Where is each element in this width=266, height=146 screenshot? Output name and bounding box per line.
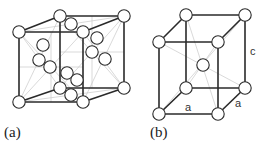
corner-atom	[77, 96, 89, 108]
atom	[197, 59, 209, 71]
atom	[86, 46, 98, 58]
dimension-a-front: a	[185, 101, 192, 113]
atom	[44, 61, 56, 73]
atom	[91, 32, 103, 44]
corner-atom	[54, 10, 66, 22]
panel-b-label: (b)	[150, 124, 168, 141]
corner-atom	[212, 36, 224, 48]
corner-atom	[239, 82, 251, 94]
corner-atom	[153, 108, 165, 120]
corner-atom	[13, 26, 25, 38]
corner-atom	[13, 96, 25, 108]
corner-atom	[180, 9, 192, 21]
atom	[65, 18, 77, 30]
corner-atom	[118, 82, 130, 94]
corner-atom	[239, 9, 251, 21]
atom	[33, 54, 45, 66]
atom	[99, 53, 111, 65]
corner-atom	[54, 82, 66, 94]
panel-a-label: (a)	[4, 124, 21, 141]
corner-atom	[212, 108, 224, 120]
atom	[37, 39, 49, 51]
corner-atom	[180, 82, 192, 94]
corner-atom	[118, 10, 130, 22]
corner-atom	[153, 36, 165, 48]
dimension-c: c	[250, 45, 256, 57]
crystal-unit-cells-diagram: (a) (b) a a c	[0, 0, 266, 146]
atom	[71, 74, 83, 86]
corner-atom	[77, 26, 89, 38]
dimension-a-side: a	[235, 97, 242, 109]
fcc-unit-cell	[13, 10, 130, 108]
atom	[65, 89, 77, 101]
